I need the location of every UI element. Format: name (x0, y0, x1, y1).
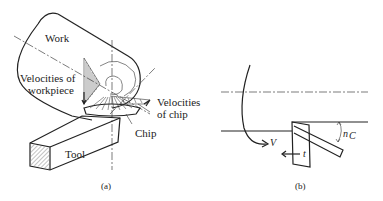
label-velocities-chip-line1: Velocities (157, 96, 200, 108)
label-velocities-workpiece-line1: Velocities of (20, 72, 76, 84)
label-velocity: V (270, 137, 278, 148)
label-velocities-workpiece-line2: workpiece (28, 84, 74, 96)
label-chip: Chip (135, 127, 157, 139)
label-velocities-chip-line2: of chip (157, 108, 188, 120)
label-work: Work (45, 32, 70, 44)
label-angle: n (343, 128, 348, 139)
label-feed: t (303, 148, 306, 159)
workpiece-cylinder (17, 13, 92, 120)
label-angle-subscript: C (349, 130, 356, 141)
figure-b: V t n C (b) (221, 65, 368, 191)
machining-diagram: Work Velocities of workpiece Velocities … (0, 0, 383, 201)
tool (30, 116, 120, 170)
caption-b: (b) (295, 181, 306, 191)
caption-a: (a) (101, 181, 111, 191)
cutting-tool (292, 122, 310, 167)
chip-strip (294, 126, 343, 157)
label-tool: Tool (65, 148, 85, 160)
figure-a: Work Velocities of workpiece Velocities … (14, 13, 200, 191)
rotation-arrow (242, 65, 266, 144)
workpiece-bore (106, 76, 123, 95)
